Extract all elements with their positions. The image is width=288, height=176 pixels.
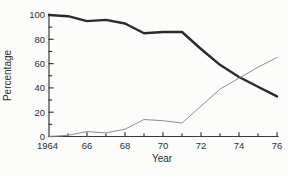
x-tick-label: 74 (234, 140, 245, 151)
line-chart-figure: 0204060801001964666870727476 Percentage … (0, 0, 288, 176)
y-tick-label: 80 (34, 34, 45, 45)
y-tick-label: 100 (29, 9, 45, 20)
x-tick-label: 68 (120, 140, 131, 151)
y-tick-label: 60 (34, 58, 45, 69)
x-tick-label: 1964 (37, 140, 58, 151)
line-chart: 0204060801001964666870727476 Percentage … (0, 0, 288, 176)
x-tick-label: 72 (196, 140, 207, 151)
x-tick-label: 70 (158, 140, 169, 151)
x-axis-title: Year (152, 153, 173, 164)
x-tick-label: 66 (82, 140, 93, 151)
y-tick-label: 20 (34, 107, 45, 118)
x-tick-label: 76 (272, 140, 283, 151)
chart-generated: 0204060801001964666870727476 (29, 9, 282, 151)
rising-series-thin-line (49, 58, 277, 137)
declining-series-thick-line (49, 15, 277, 96)
y-axis-title: Percentage (2, 49, 13, 101)
y-tick-label: 40 (34, 82, 45, 93)
